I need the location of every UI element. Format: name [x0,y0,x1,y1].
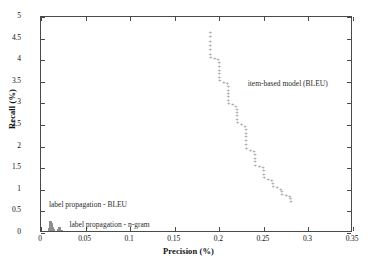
x-tick-top [264,17,265,21]
chart-figure: ++++++++++++++++++++++++++++++++++++++++… [0,0,377,268]
x-tick-top [86,17,87,21]
x-tick-top [308,17,309,21]
y-tick-right [347,39,351,40]
x-tick [353,227,354,231]
x-tick-label: 0 [20,234,60,243]
x-tick-top [353,17,354,21]
x-tick [264,227,265,231]
y-tick [41,190,45,191]
y-tick-label: 1 [0,184,21,193]
x-tick-label: 0.25 [243,234,283,243]
y-tick [41,17,45,18]
y-tick-label: 4 [0,54,21,63]
x-tick-label: 0.1 [109,234,149,243]
x-tick-label: 0.2 [198,234,238,243]
y-tick-label: 4.5 [0,33,21,42]
y-tick-right [347,168,351,169]
x-tick-label: 0.3 [287,234,327,243]
series-annotation: label propagation - BLEU [49,200,127,209]
plot-canvas: ++++++++++++++++++++++++++++++++++++++++… [41,17,351,231]
x-axis-title: Precision (%) [0,246,377,256]
y-tick-right [347,82,351,83]
x-tick [219,227,220,231]
x-tick-top [130,17,131,21]
series-annotation: label propagation - n-gram [69,220,149,229]
y-tick-right [347,147,351,148]
x-tick-top [175,17,176,21]
y-tick-right [347,17,351,18]
y-tick-label: 0.5 [0,205,21,214]
y-tick-right [347,190,351,191]
y-tick [41,82,45,83]
y-tick [41,168,45,169]
y-tick [41,60,45,61]
y-axis-title: Recall (%) [7,73,17,145]
y-tick-right [347,103,351,104]
y-tick-right [347,60,351,61]
y-tick [41,125,45,126]
y-tick-right [347,125,351,126]
series-annotation: item-based model (BLEU) [248,79,328,88]
x-tick-label: 0.35 [332,234,372,243]
y-tick [41,103,45,104]
y-tick-label: 1.5 [0,162,21,171]
data-point: + [288,198,294,204]
x-tick [308,227,309,231]
y-tick [41,211,45,212]
y-tick [41,39,45,40]
y-tick-right [347,211,351,212]
x-tick [175,227,176,231]
x-tick-label: 0.15 [154,234,194,243]
x-tick-top [219,17,220,21]
y-tick-label: 0 [0,227,21,236]
x-tick-label: 0.05 [65,234,105,243]
y-tick [41,147,45,148]
y-tick-label: 5 [0,11,21,20]
x-tick [41,227,42,231]
